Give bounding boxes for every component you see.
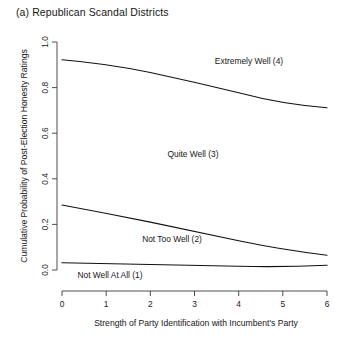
annotation-not-well-at-all: Not Well At All (1): [77, 270, 142, 280]
x-tick-label: 6: [325, 299, 330, 309]
x-axis-title: Strength of Party Identification with In…: [94, 318, 298, 328]
y-axis-title: Cumulative Probability of Post-Election …: [19, 49, 29, 263]
chart-canvas: 1.0 0.8 0.6 0.4 0.2 0.0 0 1 2 3 4 5 6 Cu…: [0, 0, 362, 344]
x-tick-label: 5: [280, 299, 285, 309]
curve-extremely-well-visible: [62, 60, 327, 108]
x-tick-label: 4: [236, 299, 241, 309]
figure-panel: (a) Republican Scandal Districts 1.0 0.: [0, 0, 362, 344]
x-tick-labels: 0 1 2 3 4 5 6: [60, 299, 330, 309]
y-tick-label: 0.6: [40, 127, 50, 139]
y-tick-label: 0.4: [40, 173, 50, 185]
annotation-not-too-well: Not Too Well (2): [142, 234, 202, 244]
curve-quite-well: [62, 205, 327, 255]
annotation-quite-well: Quite Well (3): [167, 149, 218, 159]
x-tick-label: 1: [104, 299, 109, 309]
annotation-extremely-well: Extremely Well (4): [215, 56, 283, 66]
y-tick-label: 0.8: [40, 81, 50, 93]
curve-not-too-well: [62, 263, 327, 267]
x-axis-ticks: [62, 291, 327, 296]
x-tick-label: 0: [60, 299, 65, 309]
y-tick-label: 0.2: [40, 218, 50, 230]
x-tick-label: 3: [192, 299, 197, 309]
y-axis-ticks: [52, 42, 57, 270]
y-tick-label: 0.0: [40, 264, 50, 276]
y-tick-label: 1.0: [40, 36, 50, 48]
x-tick-label: 2: [148, 299, 153, 309]
y-tick-labels: 1.0 0.8 0.6 0.4 0.2 0.0: [40, 36, 50, 276]
